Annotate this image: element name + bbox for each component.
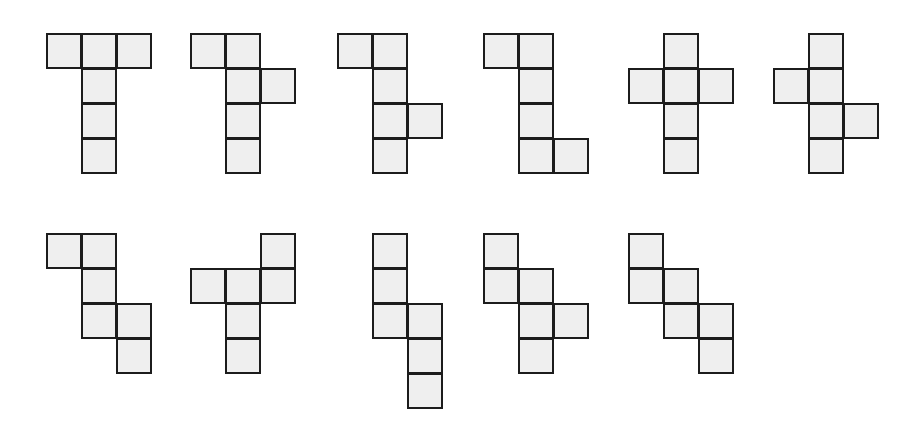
net-face-square <box>225 68 261 104</box>
net-face-square <box>628 268 664 304</box>
net-face-square <box>407 303 443 339</box>
net-face-square <box>260 268 296 304</box>
net-face-square <box>518 103 554 139</box>
net-face-square <box>372 233 408 269</box>
net-face-square <box>663 303 699 339</box>
net-face-square <box>337 33 373 69</box>
net-face-square <box>372 303 408 339</box>
net-face-square <box>698 338 734 374</box>
net-face-square <box>372 103 408 139</box>
net-face-square <box>372 138 408 174</box>
net-face-square <box>116 33 152 69</box>
net-face-square <box>260 233 296 269</box>
net-face-square <box>81 268 117 304</box>
net-face-square <box>628 68 664 104</box>
net-face-square <box>663 68 699 104</box>
net-face-square <box>518 268 554 304</box>
net-face-square <box>190 33 226 69</box>
net-face-square <box>518 33 554 69</box>
net-face-square <box>663 103 699 139</box>
net-face-square <box>225 303 261 339</box>
net-face-square <box>372 33 408 69</box>
net-face-square <box>808 68 844 104</box>
net-face-square <box>698 303 734 339</box>
net-face-square <box>483 33 519 69</box>
net-face-square <box>116 338 152 374</box>
net-face-square <box>407 338 443 374</box>
net-face-square <box>46 233 82 269</box>
net-face-square <box>518 338 554 374</box>
net-face-square <box>407 103 443 139</box>
net-face-square <box>81 233 117 269</box>
net-face-square <box>81 303 117 339</box>
net-face-square <box>225 138 261 174</box>
net-face-square <box>260 68 296 104</box>
net-face-square <box>773 68 809 104</box>
net-face-square <box>225 268 261 304</box>
net-face-square <box>372 68 408 104</box>
net-face-square <box>46 33 82 69</box>
net-face-square <box>518 303 554 339</box>
net-face-square <box>407 373 443 409</box>
net-face-square <box>81 33 117 69</box>
cube-nets-diagram <box>0 0 917 448</box>
net-face-square <box>225 103 261 139</box>
net-face-square <box>372 268 408 304</box>
net-face-square <box>116 303 152 339</box>
net-face-square <box>553 303 589 339</box>
net-face-square <box>225 33 261 69</box>
net-face-square <box>518 138 554 174</box>
net-face-square <box>81 103 117 139</box>
net-face-square <box>518 68 554 104</box>
net-face-square <box>663 138 699 174</box>
net-face-square <box>808 138 844 174</box>
net-face-square <box>483 233 519 269</box>
net-face-square <box>483 268 519 304</box>
net-face-square <box>698 68 734 104</box>
net-face-square <box>663 33 699 69</box>
net-face-square <box>843 103 879 139</box>
net-face-square <box>808 33 844 69</box>
net-face-square <box>553 138 589 174</box>
net-face-square <box>225 338 261 374</box>
net-face-square <box>663 268 699 304</box>
net-face-square <box>628 233 664 269</box>
net-face-square <box>808 103 844 139</box>
net-face-square <box>81 68 117 104</box>
net-face-square <box>81 138 117 174</box>
net-face-square <box>190 268 226 304</box>
